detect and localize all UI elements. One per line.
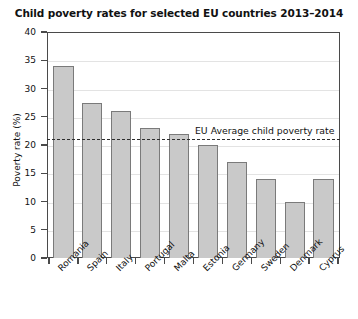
- y-axis-tick-label: 40: [0, 27, 36, 37]
- y-axis-tick: [41, 116, 47, 117]
- x-axis-tick: [106, 258, 107, 264]
- bar-series: [47, 32, 340, 258]
- bar-slot: [194, 32, 223, 258]
- bar-estonia[interactable]: [198, 145, 218, 258]
- bar-slot: [165, 32, 194, 258]
- x-axis-tick: [48, 258, 49, 264]
- y-axis-tick-label: 15: [0, 168, 36, 178]
- y-axis-tick: [41, 60, 47, 61]
- y-axis-tick-label: 0: [0, 253, 36, 263]
- bar-germany[interactable]: [227, 162, 247, 258]
- bar-portugal[interactable]: [140, 128, 160, 258]
- chart-title: Child poverty rates for selected EU coun…: [0, 7, 358, 19]
- bar-italy[interactable]: [111, 111, 131, 258]
- y-axis-tick: [41, 257, 47, 258]
- chart-figure: Child poverty rates for selected EU coun…: [0, 0, 358, 319]
- y-axis-tick: [41, 88, 47, 89]
- eu-average-line: [47, 139, 340, 140]
- y-axis-tick-label: 30: [0, 84, 36, 94]
- bar-spain[interactable]: [82, 103, 102, 258]
- bar-slot: [78, 32, 107, 258]
- y-axis-tick: [41, 201, 47, 202]
- bar-slot: [222, 32, 251, 258]
- y-axis-tick-label: 5: [0, 225, 36, 235]
- y-axis-tick-label: 35: [0, 55, 36, 65]
- bar-malta[interactable]: [169, 134, 189, 258]
- y-axis-tick-label: 10: [0, 197, 36, 207]
- bar-slot: [280, 32, 309, 258]
- bar-slot: [309, 32, 338, 258]
- y-axis-tick: [41, 144, 47, 145]
- y-axis-tick-label: 25: [0, 112, 36, 122]
- x-axis-tick: [77, 258, 78, 264]
- y-axis-tick: [41, 229, 47, 230]
- bar-slot: [107, 32, 136, 258]
- eu-average-label: EU Average child poverty rate: [193, 125, 336, 136]
- y-axis-tick-label: 20: [0, 140, 36, 150]
- y-axis-tick: [41, 31, 47, 32]
- bar-slot: [49, 32, 78, 258]
- bar-slot: [136, 32, 165, 258]
- bar-slot: [251, 32, 280, 258]
- bar-romania[interactable]: [53, 66, 73, 258]
- y-axis-tick: [41, 173, 47, 174]
